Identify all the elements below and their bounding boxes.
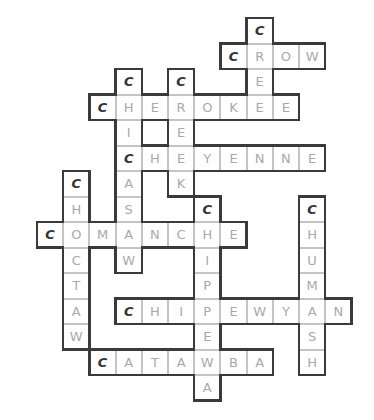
cell-border	[219, 170, 248, 173]
crossword-cell: A	[116, 350, 142, 376]
cell-border	[272, 68, 301, 71]
crossword-cell: Y	[194, 146, 220, 172]
cell-border	[219, 246, 222, 274]
cell-border	[62, 272, 65, 300]
cell-border	[167, 348, 196, 351]
cell-border	[141, 323, 170, 326]
crossword-cell: C	[194, 197, 220, 223]
cell-border	[114, 348, 143, 351]
cell-border	[272, 348, 275, 376]
cell-border	[245, 17, 274, 20]
cell-border	[324, 323, 353, 326]
cell-border	[193, 68, 196, 96]
cell-border	[114, 170, 117, 198]
cell-border	[88, 195, 91, 223]
cell-border	[141, 68, 144, 96]
cell-border	[324, 42, 327, 70]
crossword-cell: I	[116, 120, 142, 146]
cell-border	[167, 246, 196, 249]
crossword-cell: U	[299, 248, 325, 274]
cell-border	[114, 144, 117, 172]
cell-border	[245, 297, 274, 300]
cell-border	[219, 297, 248, 300]
crossword-cell: B	[220, 350, 246, 376]
crossword-cell: C	[299, 197, 325, 223]
cell-border	[114, 68, 143, 71]
cell-border	[36, 221, 65, 224]
cell-border	[219, 93, 248, 96]
cell-border	[298, 68, 327, 71]
crossword-cell: W	[116, 248, 142, 274]
crossword-cell: C	[89, 350, 115, 376]
crossword-cell: A	[247, 350, 273, 376]
cell-border	[193, 119, 196, 147]
cell-border	[141, 170, 144, 198]
crossword-cell: W	[194, 350, 220, 376]
crossword-cell: C	[37, 222, 63, 248]
cell-border	[298, 246, 301, 274]
cell-border	[114, 323, 143, 326]
cell-border	[350, 297, 353, 325]
cell-border	[62, 297, 65, 325]
cell-border	[245, 221, 248, 249]
crossword-cell: A	[63, 299, 89, 325]
cell-border	[114, 246, 117, 274]
cell-border	[167, 297, 196, 300]
cell-border	[245, 17, 248, 45]
cell-border	[114, 374, 143, 377]
cell-border	[298, 272, 301, 300]
crossword-cell: R	[168, 95, 194, 121]
crossword-cell: K	[220, 95, 246, 121]
crossword-cell: H	[116, 95, 142, 121]
cell-border	[141, 246, 170, 249]
cell-border	[167, 170, 170, 198]
crossword-cell: H	[142, 146, 168, 172]
cell-border	[141, 348, 170, 351]
crossword-cell: C	[89, 95, 115, 121]
cell-border	[245, 323, 274, 326]
cell-border	[193, 272, 196, 300]
crossword-cell: C	[247, 18, 273, 44]
cell-border	[272, 297, 301, 300]
crossword-cell: Y	[273, 299, 299, 325]
crossword-cell: H	[299, 350, 325, 376]
cell-border	[298, 221, 301, 249]
cell-border	[324, 246, 327, 274]
cell-border	[88, 119, 117, 122]
cell-border	[36, 246, 65, 249]
cell-border	[88, 170, 91, 198]
cell-border	[141, 93, 170, 96]
cell-border	[245, 119, 274, 122]
crossword-cell: N	[247, 146, 273, 172]
cell-border	[245, 348, 274, 351]
cell-border	[219, 144, 248, 147]
cell-border	[141, 195, 144, 223]
crossword-cell: S	[299, 324, 325, 350]
cell-border	[167, 68, 170, 96]
crossword-cell: N	[273, 146, 299, 172]
crossword-cell: C	[116, 69, 142, 95]
cell-border	[245, 170, 274, 173]
cell-border	[62, 170, 65, 198]
crossword-cell: R	[247, 44, 273, 70]
crossword-cell: E	[247, 69, 273, 95]
cell-border	[141, 119, 170, 122]
cell-border	[88, 93, 117, 96]
cell-border	[62, 170, 91, 173]
cell-border	[88, 297, 91, 325]
cell-border	[272, 93, 301, 96]
cell-border	[141, 246, 144, 274]
cell-border	[298, 323, 301, 351]
cell-border	[167, 221, 196, 224]
cell-border	[298, 195, 301, 223]
cell-border	[193, 246, 196, 274]
crossword-cell: O	[63, 222, 89, 248]
cell-border	[114, 272, 143, 275]
cell-border	[245, 68, 248, 96]
crossword-cell: M	[89, 222, 115, 248]
cell-border	[272, 17, 275, 45]
cell-border	[62, 348, 91, 351]
cell-border	[324, 297, 353, 300]
cell-border	[141, 297, 170, 300]
cell-border	[298, 170, 327, 173]
